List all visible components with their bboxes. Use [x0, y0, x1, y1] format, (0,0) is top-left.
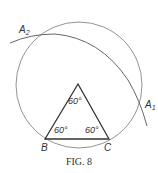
locus-arc [10, 34, 147, 126]
point-a2-label: A2 [18, 24, 30, 36]
point-a1-label: A1 [144, 99, 156, 111]
angle-apex-label: 60° [68, 96, 82, 106]
geometry-figure: 60° 60° 60° A2 A1 B C FIG. 8 [0, 0, 158, 173]
point-b-label: B [41, 142, 48, 153]
angle-c-label: 60° [85, 125, 99, 135]
figure-caption: FIG. 8 [66, 156, 92, 167]
angle-b-label: 60° [54, 125, 68, 135]
point-c-label: C [104, 142, 112, 153]
